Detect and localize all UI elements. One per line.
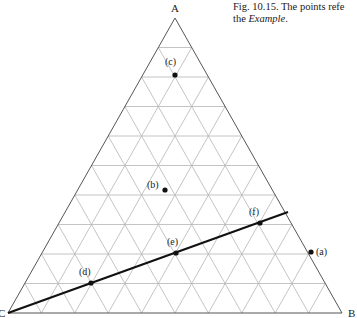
vertex-label-b: B <box>348 307 355 318</box>
vertex-labels: ABC <box>0 2 355 318</box>
grid-line <box>25 284 42 314</box>
point-marker <box>88 280 93 285</box>
data-points: (a)(b)(c)(d)(e)(f) <box>79 56 327 286</box>
ternary-diagram: (a)(b)(c)(d)(e)(f) ABC <box>0 0 357 318</box>
grid-line <box>158 48 308 314</box>
tie-line <box>8 212 288 313</box>
point-marker <box>172 72 177 77</box>
grid-line <box>242 225 292 314</box>
point-label: (e) <box>167 236 178 248</box>
point-marker <box>257 220 262 225</box>
grid-line <box>92 166 176 314</box>
point-marker <box>173 250 178 255</box>
point-label: (d) <box>79 266 91 278</box>
point-label: (b) <box>147 179 159 191</box>
vertex-label-c: C <box>0 307 5 318</box>
vertex-label-a: A <box>171 2 179 14</box>
point-label: (c) <box>165 56 176 68</box>
ternary-grid <box>25 48 326 314</box>
point-marker <box>308 249 313 254</box>
grid-line <box>108 107 225 314</box>
point-marker <box>162 187 167 192</box>
point-b: (b) <box>147 179 168 193</box>
point-d: (d) <box>79 266 94 286</box>
grid-line <box>125 107 242 314</box>
point-label: (f) <box>249 206 259 218</box>
point-c: (c) <box>165 56 178 78</box>
grid-line <box>309 284 326 314</box>
point-a: (a) <box>308 246 327 258</box>
point-label: (a) <box>316 246 327 258</box>
grid-line <box>175 166 259 314</box>
